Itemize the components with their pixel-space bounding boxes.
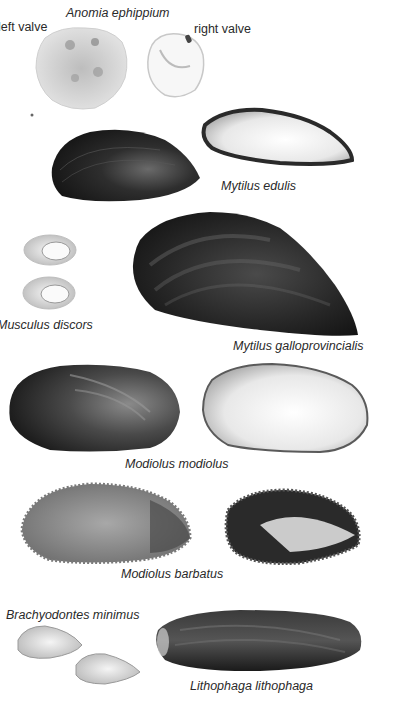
label-anomia-ephippium: Anomia ephippium bbox=[66, 7, 170, 20]
modiolus-modiolus-exterior bbox=[9, 365, 180, 452]
label-lithophaga-lithophaga: Lithophaga lithophaga bbox=[190, 680, 313, 693]
mytilus-galloprovincialis-shell bbox=[133, 212, 358, 336]
label-brachyodontes-minimus: Brachyodontes minimus bbox=[6, 609, 139, 622]
label-modiolus-barbatus: Modiolus barbatus bbox=[121, 568, 223, 581]
lithophaga-lithophaga-shell bbox=[156, 610, 361, 671]
label-right-valve: right valve bbox=[194, 23, 251, 36]
label-musculus-discors: Musculus discors bbox=[0, 319, 93, 332]
mytilus-edulis-interior bbox=[204, 110, 352, 164]
modiolus-modiolus-interior bbox=[203, 364, 367, 452]
shell-plate: Anomia ephippium left valve right valve … bbox=[0, 0, 393, 713]
label-mytilus-edulis: Mytilus edulis bbox=[221, 180, 296, 193]
label-mytilus-galloprovincialis: Mytilus galloprovincialis bbox=[233, 340, 364, 353]
shell-illustrations bbox=[0, 0, 393, 713]
musculus-discors-shells bbox=[23, 235, 76, 309]
anomia-right-valve bbox=[148, 34, 204, 97]
mytilus-edulis-exterior bbox=[52, 130, 200, 202]
anomia-left-valve bbox=[36, 28, 127, 109]
label-modiolus-modiolus: Modiolus modiolus bbox=[125, 458, 229, 471]
label-left-valve: left valve bbox=[0, 21, 47, 34]
brachyodontes-minimus-shells bbox=[18, 626, 140, 684]
modiolus-barbatus-exterior bbox=[22, 484, 190, 563]
modiolus-barbatus-interior bbox=[226, 490, 359, 564]
speck bbox=[31, 114, 34, 117]
